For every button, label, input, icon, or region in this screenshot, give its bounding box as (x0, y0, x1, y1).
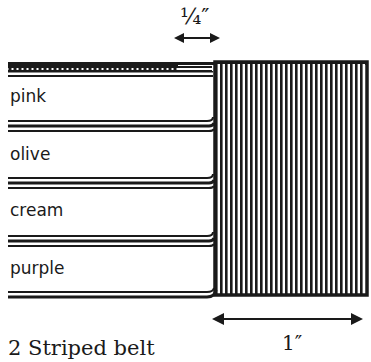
one-inch-label: 1″ (282, 333, 302, 353)
belt-diagram (0, 0, 371, 362)
stripe-label-pink: pink (10, 88, 46, 105)
stripe-label-purple: purple (10, 260, 65, 277)
quarter-inch-arrow (174, 33, 220, 43)
striped-block (215, 62, 367, 295)
stripe-label-cream: cream (10, 202, 63, 219)
one-inch-arrow (212, 313, 363, 325)
figure-caption: 2 Striped belt (8, 338, 155, 359)
stripe-label-olive: olive (10, 146, 50, 163)
quarter-inch-label: ¼″ (180, 6, 210, 28)
